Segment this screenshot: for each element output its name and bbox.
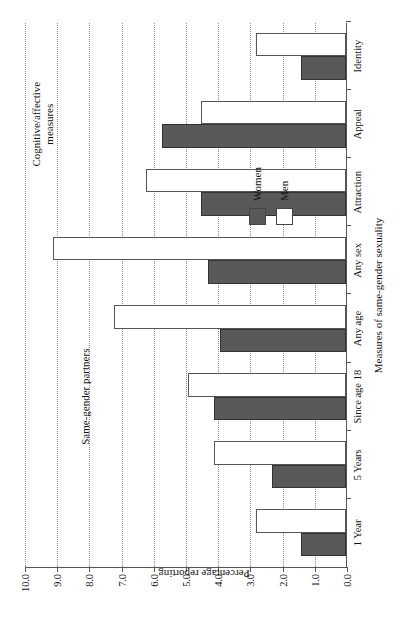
bar-women-any-age: [220, 329, 346, 353]
x-tick-label-any-age: Any age: [352, 311, 363, 346]
bar-women-appeal: [162, 124, 346, 148]
x-tick-label-attraction: Attraction: [352, 171, 363, 214]
bar-men-identity: [256, 33, 346, 57]
y-tick-label: 0.0: [342, 574, 353, 587]
legend-swatch-women: [249, 208, 266, 225]
gridline: [25, 23, 26, 567]
y-tick-mark: [315, 567, 316, 572]
x-tick-label-since-age-18: Since age 18: [352, 370, 363, 424]
x-tick-mark: [346, 430, 351, 431]
rotated-figure-wrapper: 0.01.02.03.04.05.06.07.08.09.010.01 Year…: [0, 0, 407, 628]
bar-men-5-years: [214, 441, 346, 465]
bar-men-any-age: [114, 305, 346, 329]
y-tick-label: 2.0: [277, 574, 288, 587]
y-tick-mark: [250, 567, 251, 572]
plot-inner: 0.01.02.03.04.05.06.07.08.09.010.01 Year…: [25, 23, 346, 567]
x-tick-mark: [346, 498, 351, 499]
x-tick-mark: [346, 294, 351, 295]
x-tick-label-5-years: 5 Years: [352, 449, 363, 480]
gridline: [186, 23, 187, 567]
legend-item-men: Men: [276, 167, 293, 225]
annotation-2: Cognitive/affective measures: [29, 82, 56, 167]
y-tick-label: 7.0: [116, 574, 127, 587]
y-tick-mark: [57, 567, 58, 572]
legend-swatch-men: [276, 208, 293, 225]
y-tick-label: 10.0: [20, 574, 31, 592]
gridline: [57, 23, 58, 567]
y-tick-label: 1.0: [309, 574, 320, 587]
legend: WomenMen: [249, 167, 293, 225]
bar-chart-figure: 0.01.02.03.04.05.06.07.08.09.010.01 Year…: [0, 0, 407, 628]
bar-men-any-sex: [53, 237, 346, 261]
y-tick-label: 9.0: [52, 574, 63, 587]
x-axis-title: Measures of same-gender sexuality: [372, 23, 384, 568]
gridline: [122, 23, 123, 567]
bar-women-5-years: [272, 465, 346, 489]
y-tick-mark: [122, 567, 123, 572]
bar-women-identity: [301, 56, 346, 80]
y-axis-title: Percentage reporting: [158, 568, 249, 580]
x-tick-mark: [346, 157, 351, 158]
bar-women-since-age-18: [214, 397, 346, 421]
x-tick-mark: [346, 89, 351, 90]
gridline: [154, 23, 155, 567]
x-tick-mark: [346, 362, 351, 363]
x-tick-label-identity: Identity: [352, 40, 363, 73]
y-tick-mark: [89, 567, 90, 572]
annotation-1: Same-gender partners: [79, 349, 92, 445]
y-tick-mark: [25, 567, 26, 572]
legend-label-women: Women: [251, 167, 263, 201]
x-tick-label-appeal: Appeal: [352, 109, 363, 139]
y-tick-label: 8.0: [84, 574, 95, 587]
y-tick-mark: [154, 567, 155, 572]
x-tick-label-1-year: 1 Year: [352, 520, 363, 547]
x-tick-mark: [346, 225, 351, 226]
x-tick-label-any-sex: Any sex: [352, 243, 363, 278]
bar-men-appeal: [201, 101, 346, 125]
x-tick-mark: [346, 21, 351, 22]
y-tick-mark: [283, 567, 284, 572]
bar-men-1-year: [256, 509, 346, 533]
plot-area: 0.01.02.03.04.05.06.07.08.09.010.01 Year…: [25, 23, 347, 568]
bar-men-since-age-18: [188, 373, 346, 397]
bar-women-any-sex: [208, 260, 346, 284]
legend-label-men: Men: [278, 181, 290, 201]
legend-item-women: Women: [249, 167, 266, 225]
y-tick-mark: [347, 567, 348, 572]
bar-women-1-year: [301, 533, 346, 557]
bar-men-attraction: [146, 169, 346, 193]
gridline: [89, 23, 90, 567]
